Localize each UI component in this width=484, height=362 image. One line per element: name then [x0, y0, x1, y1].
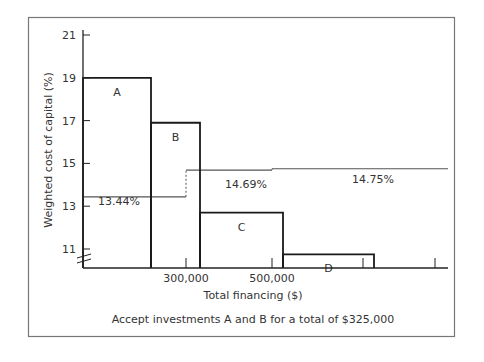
x-tick-label: 300,000 — [163, 272, 209, 285]
bar-label-a: A — [113, 86, 121, 99]
y-tick-label: 19 — [62, 72, 76, 85]
axis-break-mark — [77, 259, 91, 263]
ios-bar-a — [83, 78, 151, 268]
wmcc-label: 14.69% — [225, 178, 267, 191]
bar-label-c: C — [238, 221, 246, 234]
y-tick-label: 11 — [62, 243, 76, 256]
x-axis-label: Total financing ($) — [203, 289, 303, 302]
ios-bar-b — [151, 123, 200, 268]
y-tick-label: 15 — [62, 157, 76, 170]
y-axis-label: Weighted cost of capital (%) — [42, 72, 55, 227]
bar-label-b: B — [172, 131, 180, 144]
plot-area: 13.44%14.69%14.75%ABCD111315171921300,00… — [62, 29, 448, 285]
y-tick-label: 17 — [62, 115, 76, 128]
chart-caption: Accept investments A and B for a total o… — [112, 313, 395, 326]
bar-label-d: D — [324, 262, 332, 275]
axis-break-mark — [77, 254, 91, 258]
wmcc-label: 14.75% — [352, 173, 394, 186]
wmcc-label: 13.44% — [98, 195, 140, 208]
y-tick-label: 21 — [62, 29, 76, 42]
x-tick-label: 500,000 — [249, 272, 295, 285]
chart-figure: 13.44%14.69%14.75%ABCD111315171921300,00… — [0, 0, 484, 362]
y-tick-label: 13 — [62, 200, 76, 213]
